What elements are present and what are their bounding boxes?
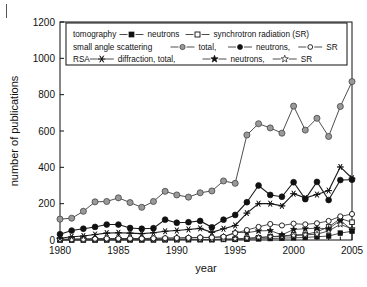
data-point: [81, 236, 86, 241]
legend-label: SR: [301, 55, 312, 64]
data-point: [69, 228, 75, 234]
data-point: [186, 219, 192, 225]
x-tick-label: 2005: [341, 245, 364, 256]
y-tick-label: 600: [38, 126, 55, 137]
data-point: [350, 220, 355, 225]
legend-label: small angle scattering: [73, 43, 153, 52]
data-point: [279, 194, 285, 200]
y-axis-title: number of publications: [8, 75, 20, 186]
x-tick-label: 1990: [166, 245, 189, 256]
data-point: [232, 180, 238, 186]
data-point: [115, 195, 121, 201]
x-tick-label: 1995: [224, 245, 247, 256]
data-point: [209, 224, 215, 230]
y-tick-label: 1200: [33, 17, 56, 28]
legend-label: total,: [199, 43, 217, 52]
data-point: [268, 221, 273, 226]
data-point: [256, 183, 262, 189]
data-point: [256, 224, 261, 229]
data-point: [151, 236, 156, 241]
data-point: [128, 236, 133, 241]
data-point: [162, 217, 168, 223]
legend-label: synchrotron radiation (SR): [214, 30, 310, 39]
y-tick-label: 200: [38, 198, 55, 209]
legend-label: neutrons,: [231, 55, 265, 64]
data-point: [116, 236, 121, 241]
publications-line-chart: 0200400600800100012001980198519901995200…: [0, 0, 367, 287]
data-point: [197, 190, 203, 196]
data-point: [80, 226, 86, 232]
data-point: [174, 192, 180, 198]
data-point: [302, 196, 308, 202]
chart-legend: tomographyneutronssynchrotron radiation …: [66, 23, 347, 65]
data-point: [69, 215, 75, 221]
y-tick-label: 0: [49, 235, 55, 246]
y-tick-label: 1000: [33, 53, 56, 64]
data-point: [244, 199, 250, 205]
data-point: [349, 79, 355, 85]
legend-label: tomography: [73, 30, 117, 39]
data-point: [163, 236, 168, 241]
legend-marker-filled-circle: [238, 45, 243, 50]
data-point: [57, 216, 63, 222]
data-point: [174, 235, 179, 240]
data-point: [349, 177, 355, 183]
data-point: [92, 224, 98, 230]
data-point: [198, 235, 203, 240]
data-point: [267, 125, 273, 131]
data-point: [338, 214, 343, 219]
x-tick-label: 1985: [107, 245, 130, 256]
data-point: [127, 200, 133, 206]
page-edge-mark: [6, 4, 7, 18]
data-point: [337, 103, 343, 109]
legend-marker-open-circle: [308, 45, 313, 50]
x-tick-label: 1980: [49, 245, 72, 256]
data-point: [303, 222, 308, 227]
data-point: [139, 204, 145, 210]
data-point: [139, 236, 144, 241]
y-tick-label: 400: [38, 162, 55, 173]
data-point: [197, 218, 203, 224]
data-point: [221, 217, 227, 223]
legend-marker-filled-square: [129, 32, 134, 37]
data-point: [267, 192, 273, 198]
data-point: [116, 222, 122, 228]
data-point: [162, 188, 168, 194]
data-point: [104, 222, 110, 228]
data-point: [291, 103, 297, 109]
data-point: [209, 235, 214, 240]
chart-figure: 0200400600800100012001980198519901995200…: [0, 0, 367, 287]
data-point: [80, 208, 86, 214]
data-point: [279, 223, 284, 228]
data-point: [326, 133, 332, 139]
legend-label: SR: [326, 43, 337, 52]
legend-label: neutrons,: [256, 43, 290, 52]
data-point: [291, 179, 297, 185]
legend-label: neutrons: [148, 30, 180, 39]
legend-label: diffraction, total,: [118, 55, 176, 64]
data-point: [209, 188, 215, 194]
data-point: [221, 234, 226, 239]
data-point: [104, 198, 110, 204]
data-point: [104, 236, 109, 241]
data-point: [326, 234, 331, 239]
x-axis-title: year: [195, 262, 217, 274]
data-point: [326, 197, 332, 203]
data-point: [150, 198, 156, 204]
data-point: [302, 127, 308, 133]
data-point: [92, 199, 98, 205]
data-point: [244, 132, 250, 138]
data-point: [326, 218, 331, 223]
data-point: [338, 231, 343, 236]
data-point: [232, 212, 238, 218]
legend-label: RSA: [73, 55, 90, 64]
data-point: [127, 225, 133, 231]
data-point: [337, 177, 343, 183]
data-point: [57, 231, 63, 237]
data-point: [291, 221, 296, 226]
data-point: [279, 130, 285, 136]
data-point: [256, 121, 262, 127]
legend-marker-filled-circle-gray: [180, 44, 185, 49]
data-point: [314, 221, 319, 226]
data-point: [139, 226, 145, 232]
